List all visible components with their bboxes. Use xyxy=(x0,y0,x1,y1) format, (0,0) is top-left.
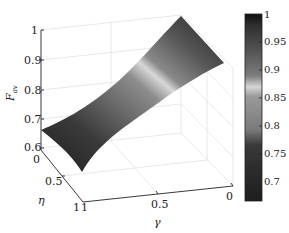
eta-axis-label: η xyxy=(38,195,45,206)
colorbar-tick-label: 0.75 xyxy=(264,149,286,159)
surface-plot-figure: 1 0.9 0.8 0.7 0.6 Fav 0 0.5 1 η 1 0.5 0 … xyxy=(0,0,289,233)
colorbar-tick-label: 0.9 xyxy=(264,65,280,75)
z-axis-label-main: F xyxy=(4,93,17,101)
z-axis-label-sub: av xyxy=(11,85,19,93)
colorbar-tick-label: 0.85 xyxy=(264,93,286,103)
gamma-tick-label: 0.5 xyxy=(151,199,169,210)
z-tick-label: 1 xyxy=(31,25,38,36)
eta-tick-label: 0 xyxy=(33,154,40,165)
eta-tick-label: 0.5 xyxy=(45,176,63,187)
colorbar-tick-label: 0.7 xyxy=(264,177,280,187)
z-axis-label: Fav xyxy=(5,85,19,101)
gamma-axis-label: γ xyxy=(154,217,161,228)
z-tick-label: 0.7 xyxy=(24,114,42,125)
eta-tick-label: 1 xyxy=(73,202,80,213)
z-tick-label: 0.9 xyxy=(24,55,42,66)
colorbar-tick-label: 0.8 xyxy=(264,121,280,131)
colorbar-tick-label: 1 xyxy=(264,10,270,20)
gamma-tick-label: 0 xyxy=(226,191,233,202)
z-tick-label: 0.6 xyxy=(24,142,42,153)
colorbar-tick-label: 0.95 xyxy=(264,37,286,47)
z-tick-label: 0.8 xyxy=(24,85,42,96)
gamma-tick-label: 1 xyxy=(81,202,88,213)
